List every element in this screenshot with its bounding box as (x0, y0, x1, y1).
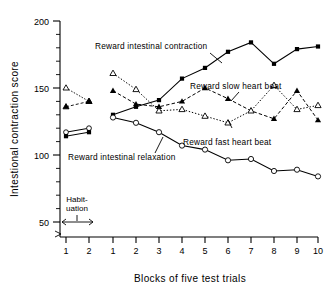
habituation-series-fast-heart-beat (63, 98, 92, 109)
annotation-reward-slow-heart-beat: Reward slow heart beat (190, 81, 282, 91)
x-tick-label-5: 5 (202, 246, 207, 256)
series-reward-intestinal-contraction (111, 40, 320, 117)
y-tick-label-50: 50 (39, 218, 49, 228)
y-tick-label-100: 100 (34, 151, 49, 161)
x-tick-label-1: 1 (110, 246, 115, 256)
x-tick-label-6: 6 (225, 246, 230, 256)
hab-tick-label-1: 1 (63, 246, 68, 256)
hab-tick-label-2: 2 (86, 246, 91, 256)
x-ticks (66, 237, 318, 243)
series-reward-fast-heart-beat (110, 70, 321, 125)
y-major-ticks (53, 21, 60, 222)
y-tick-label-200: 200 (34, 17, 49, 27)
chart-canvas: 200 150 100 50 1 2 1 2 3 4 5 6 7 8 9 10 … (0, 0, 325, 291)
x-tick-label-3: 3 (156, 246, 161, 256)
figure: 200 150 100 50 1 2 1 2 3 4 5 6 7 8 9 10 … (0, 0, 325, 291)
habituation-label-line2: uation (66, 204, 88, 213)
x-axis-label: Blocks of five test trials (134, 273, 246, 284)
habituation-label-line1: Habit- (66, 195, 88, 204)
x-tick-label-4: 4 (179, 246, 184, 256)
x-tick-label-8: 8 (271, 246, 276, 256)
x-tick-label-9: 9 (294, 246, 299, 256)
x-tick-label-2: 2 (133, 246, 138, 256)
annotation-reward-intestinal-contraction: Reward intestinal contraction (95, 41, 208, 51)
annotation-reward-intestinal-relaxation: Reward intestinal relaxation (68, 152, 176, 162)
annotation-reward-fast-heart-beat: Reward fast heart beat (183, 137, 272, 147)
x-tick-label-7: 7 (248, 246, 253, 256)
x-tick-label-10: 10 (313, 246, 323, 256)
y-minor-ticks (56, 34, 60, 208)
habituation-bracket (62, 215, 93, 225)
y-tick-label-150: 150 (34, 84, 49, 94)
y-axis-label: Intestional contraction score (9, 61, 20, 197)
